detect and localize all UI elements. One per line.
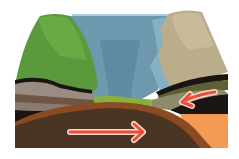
rift-valley-diagram [0,0,239,159]
